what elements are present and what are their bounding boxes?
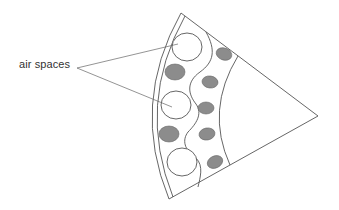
cell-inner-3	[198, 102, 214, 114]
sector-top-edge	[181, 13, 318, 116]
air-space-1	[172, 33, 202, 61]
cell-inner-5	[205, 153, 225, 171]
cell-inner-4	[198, 127, 216, 142]
sector-diagram	[0, 0, 339, 210]
cell-outer-1	[165, 64, 185, 80]
cell-inner-1	[214, 46, 233, 63]
leader-line-2	[77, 68, 172, 107]
inner-arc	[219, 56, 238, 165]
cell-outer-2	[159, 126, 179, 142]
leader-line-1	[77, 44, 178, 68]
air-space-2	[161, 91, 191, 119]
air-space-3	[167, 148, 197, 176]
cell-inner-2	[201, 75, 219, 89]
